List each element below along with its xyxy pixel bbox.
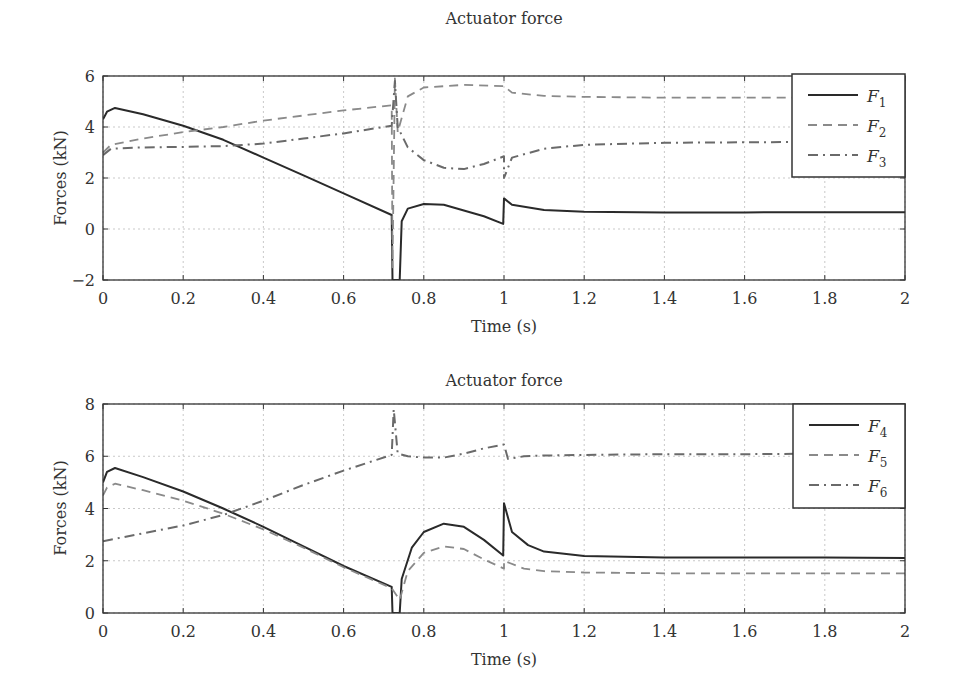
x-tick-label: 1.8 (812, 289, 837, 308)
y-tick-label: 8 (85, 395, 95, 414)
series-lines (103, 79, 905, 281)
y-tick-label: 6 (85, 447, 95, 466)
x-tick-label: 0.6 (331, 289, 356, 308)
tick-labels: 00.20.40.60.811.21.41.61.8202468 (85, 395, 910, 641)
x-tick-label: 1.6 (732, 622, 757, 641)
x-tick-label: 1.4 (652, 622, 677, 641)
x-tick-label: 1 (499, 289, 509, 308)
y-tick-label: 6 (85, 67, 95, 86)
x-tick-label: 2 (900, 289, 910, 308)
x-tick-label: 0.2 (170, 289, 195, 308)
x-tick-label: 0 (98, 622, 108, 641)
figure: Actuator force 00.20.40.60.811.21.41.61.… (0, 0, 954, 695)
top-chart: Actuator force 00.20.40.60.811.21.41.61.… (51, 9, 910, 336)
x-tick-label: 1 (499, 622, 509, 641)
y-tick-label: 2 (85, 169, 95, 188)
legend: F4F5F6 (793, 404, 905, 508)
x-tick-label: 1.8 (812, 622, 837, 641)
chart-title: Actuator force (444, 371, 562, 390)
x-tick-label: 2 (900, 622, 910, 641)
x-tick-label: 0.2 (170, 622, 195, 641)
x-tick-label: 1.2 (571, 622, 596, 641)
bottom-chart: Actuator force 00.20.40.60.811.21.41.61.… (51, 371, 910, 669)
legend-box (793, 404, 905, 508)
series-F3 (103, 81, 905, 178)
chart-title: Actuator force (444, 9, 562, 28)
series-F1 (103, 108, 905, 280)
y-tick-label: 4 (85, 118, 95, 137)
x-tick-label: 0.8 (411, 622, 436, 641)
x-axis-label: Time (s) (471, 317, 537, 336)
legend: F1F2F3 (792, 74, 905, 177)
x-tick-label: 0.6 (331, 622, 356, 641)
y-tick-label: 4 (85, 500, 95, 519)
x-tick-label: 1.4 (652, 289, 677, 308)
y-tick-label: −2 (71, 271, 95, 290)
x-tick-label: 0 (98, 289, 108, 308)
x-tick-label: 1.6 (732, 289, 757, 308)
tick-labels: 00.20.40.60.811.21.41.61.82−20246 (71, 67, 910, 308)
y-axis-label: Forces (kN) (51, 130, 70, 225)
y-tick-label: 0 (85, 604, 95, 623)
y-tick-label: 2 (85, 552, 95, 571)
x-axis-label: Time (s) (471, 650, 537, 669)
x-tick-label: 0.8 (411, 289, 436, 308)
y-axis-label: Forces (kN) (51, 460, 70, 555)
x-tick-label: 1.2 (571, 289, 596, 308)
y-tick-label: 0 (85, 220, 95, 239)
x-tick-label: 0.4 (251, 289, 276, 308)
x-tick-label: 0.4 (251, 622, 276, 641)
